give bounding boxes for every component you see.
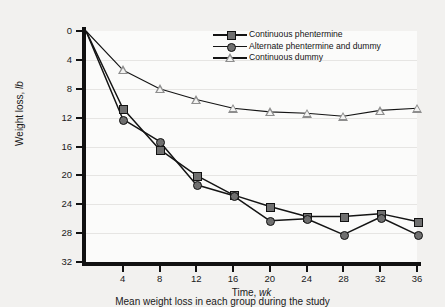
data-point [156,138,165,147]
legend-marker [213,52,247,64]
legend-label: Alternate phentermine and dummy [249,41,381,53]
legend-item: Continuous dummy [213,52,381,64]
data-point [119,105,128,114]
data-point [266,203,275,212]
chart-legend: Continuous phentermineAlternate phenterm… [213,29,381,64]
data-point [414,231,423,240]
data-point [118,65,128,74]
data-point [412,104,422,113]
data-point [230,192,239,201]
data-point [340,213,349,222]
legend-item: Continuous phentermine [213,29,381,41]
legend-filled-square-icon [227,31,236,40]
legend-marker [213,41,247,53]
legend-item: Alternate phentermine and dummy [213,41,381,53]
legend-marker [213,29,247,41]
data-point [340,231,349,240]
data-point [377,214,386,223]
data-point [265,107,275,116]
legend-label: Continuous dummy [249,52,323,64]
data-point [156,146,165,155]
data-point [155,84,165,93]
data-point [338,112,348,121]
data-point [302,109,312,118]
data-point [375,106,385,115]
legend-open-triangle-icon [225,53,235,62]
legend-label: Continuous phentermine [249,29,343,41]
data-point [119,116,128,125]
data-point [414,218,423,227]
chart-figure: 048121620242832 4812162024283236 Weight … [0,0,445,307]
data-point [228,104,238,113]
legend-filled-circle-icon [227,43,236,52]
data-point [191,95,201,104]
data-point [193,172,202,181]
